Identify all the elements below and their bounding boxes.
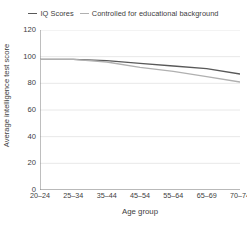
x-tick-label: 25–34 bbox=[63, 192, 83, 199]
y-tick-label: 120 bbox=[23, 26, 36, 34]
chart-container: IQ Scores Controlled for educational bac… bbox=[0, 0, 247, 238]
x-tick-label: 20–24 bbox=[30, 192, 50, 199]
y-axis-title-text: Average intelligence test score bbox=[3, 43, 12, 146]
legend-item-controlled: Controlled for educational background bbox=[80, 9, 219, 18]
gridlines bbox=[40, 30, 240, 190]
y-tick-label: 20 bbox=[28, 160, 36, 168]
y-tick-label: 60 bbox=[28, 106, 36, 114]
x-tick-label: 35–44 bbox=[97, 192, 117, 199]
x-tick-label: 55–64 bbox=[163, 192, 183, 199]
y-axis-tick-labels: 020406080100120 bbox=[14, 0, 38, 238]
x-tick-label: 65–69 bbox=[197, 192, 217, 199]
x-axis-tick-labels: 20–2425–3435–4445–5455–6465–6970–74 bbox=[40, 192, 240, 206]
legend-label-iq-scores: IQ Scores bbox=[40, 9, 73, 18]
data-series-group bbox=[40, 59, 240, 82]
x-axis-title: Age group bbox=[40, 207, 240, 216]
x-tick-label: 45–54 bbox=[130, 192, 150, 199]
y-tick-label: 100 bbox=[23, 53, 36, 61]
legend-line-swatch-icon bbox=[80, 13, 89, 14]
x-tick-label: 70–74 bbox=[230, 192, 247, 199]
y-tick-label: 40 bbox=[28, 133, 36, 141]
series-line-0 bbox=[40, 59, 240, 74]
plot-area bbox=[40, 30, 240, 190]
y-axis-title: Average intelligence test score bbox=[0, 0, 14, 190]
y-tick-label: 80 bbox=[28, 80, 36, 88]
chart-svg bbox=[40, 30, 240, 190]
legend-label-controlled: Controlled for educational background bbox=[92, 9, 219, 18]
x-axis-title-text: Age group bbox=[122, 207, 158, 216]
